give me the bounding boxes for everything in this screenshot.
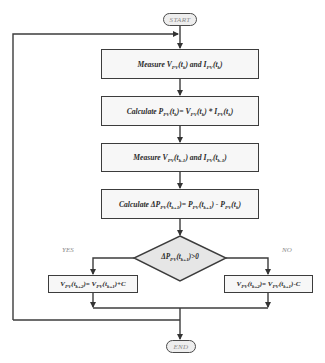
start-terminal: START [163,13,197,26]
yes-label: YES [62,246,74,254]
action-increase-voltage: VPV(tk+2)= VPV(tk+1)+C [48,275,138,293]
action-decrease-voltage: VPV(tk+2)= VPV(tk+1)-C [224,275,313,293]
step-measure-vk1-ik1: Measure VPV(tk-1) and IPV(tk-1) [101,143,259,172]
arrow-no-branch [226,258,268,274]
step-label: Calculate ΔPPV(tk+1)= PPV(tk+1) - PPV(tk… [119,200,241,209]
step-calculate-delta-power: Calculate ΔPPV(tk+1)= PPV(tk+1) - PPV(tk… [101,189,259,219]
action-label: VPV(tk+2)= VPV(tk+1)-C [237,280,301,288]
step-label: Measure VPV(tk) and IPV(tk) [137,60,222,69]
decision-label: ΔPPV(tk+1)>0 [140,253,220,261]
step-calculate-power: Calculate PPV(tk)= VPV(tk) * IPV(tk) [101,96,259,126]
arrow-yes-branch [93,258,134,274]
step-label: Calculate PPV(tk)= VPV(tk) * IPV(tk) [127,107,234,116]
step-measure-vk-ik: Measure VPV(tk) and IPV(tk) [101,49,259,79]
no-label: NO [282,246,292,254]
step-label: Measure VPV(tk-1) and IPV(tk-1) [133,153,226,162]
end-label: END [174,343,189,351]
action-label: VPV(tk+2)= VPV(tk+1)+C [60,280,125,288]
end-terminal: END [166,340,196,353]
start-label: START [170,16,191,24]
